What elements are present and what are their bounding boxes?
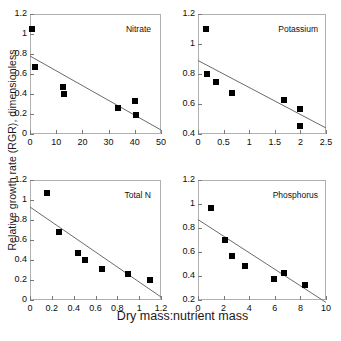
y-tick-label: 0.6 (169, 98, 195, 108)
data-point (229, 253, 235, 259)
panel-title: Phosphorus (273, 190, 318, 200)
data-point (213, 79, 219, 85)
y-tick (30, 134, 34, 135)
x-tick (198, 130, 199, 134)
x-tick-label: 1.2 (148, 303, 174, 313)
y-tick-label: 0.6 (1, 234, 27, 244)
y-tick (198, 252, 202, 253)
x-tick (56, 130, 57, 134)
y-tick-label: 1.2 (1, 174, 27, 184)
x-tick (161, 130, 162, 134)
x-tick-label: 2 (211, 303, 237, 313)
panel-title: Nitrate (126, 24, 151, 34)
data-point (132, 98, 138, 104)
y-tick (30, 94, 34, 95)
y-tick-label: 0.4 (1, 88, 27, 98)
data-point (133, 112, 139, 118)
x-tick (52, 296, 53, 300)
y-tick-label: 1.2 (1, 8, 27, 18)
x-tick (249, 130, 250, 134)
x-tick-label: 40 (122, 137, 148, 147)
y-tick-label: 1.2 (169, 8, 195, 18)
y-tick (198, 74, 202, 75)
x-tick-label: 50 (148, 137, 174, 147)
y-tick (198, 276, 202, 277)
y-tick (30, 74, 34, 75)
y-tick (198, 104, 202, 105)
y-tick-label: 0.8 (1, 48, 27, 58)
data-point (60, 84, 66, 90)
y-tick-label: 0.4 (1, 254, 27, 264)
y-tick (30, 220, 34, 221)
x-tick (30, 130, 31, 134)
data-point (29, 26, 35, 32)
y-tick-label: 0.2 (1, 108, 27, 118)
data-point (147, 277, 153, 283)
data-point (297, 123, 303, 129)
data-point (115, 105, 121, 111)
x-tick (198, 296, 199, 300)
y-tick (198, 300, 202, 301)
data-point (82, 257, 88, 263)
data-point (125, 271, 131, 277)
x-tick (117, 296, 118, 300)
data-point (281, 270, 287, 276)
panel-potassium: 0.40.60.811.200.511.522.5Potassium (198, 14, 341, 174)
y-tick (30, 260, 34, 261)
x-tick (326, 130, 327, 134)
data-point (271, 276, 277, 282)
x-tick-label: 2 (287, 137, 313, 147)
x-tick-label: 8 (287, 303, 313, 313)
data-point (281, 97, 287, 103)
x-tick (275, 130, 276, 134)
y-tick-label: 1 (169, 198, 195, 208)
x-tick-label: 20 (69, 137, 95, 147)
y-tick-label: 1 (169, 38, 195, 48)
x-tick-label: 0.5 (211, 137, 237, 147)
panel-title: Potassium (278, 24, 318, 34)
x-tick-label: 30 (96, 137, 122, 147)
x-tick-label: 2.5 (313, 137, 339, 147)
x-tick (109, 130, 110, 134)
x-tick (135, 130, 136, 134)
x-tick (74, 296, 75, 300)
data-point (56, 229, 62, 235)
x-tick-label: 0 (185, 303, 211, 313)
data-point (297, 106, 303, 112)
x-tick-label: 10 (43, 137, 69, 147)
x-tick-label: 1.5 (262, 137, 288, 147)
x-tick (224, 130, 225, 134)
x-tick (326, 296, 327, 300)
panel-phosphorus: 0.20.40.60.811.20246810Phosphorus (198, 180, 341, 340)
data-point (32, 64, 38, 70)
y-tick (30, 54, 34, 55)
data-point (204, 71, 210, 77)
y-tick (198, 204, 202, 205)
data-point (99, 266, 105, 272)
y-tick-label: 0.4 (169, 270, 195, 280)
x-tick (82, 130, 83, 134)
y-tick (30, 14, 34, 15)
figure-root: Relative growth rate (RGR), dimensionles… (0, 0, 341, 341)
x-tick (30, 296, 31, 300)
y-tick-label: 1.2 (169, 174, 195, 184)
y-tick-label: 0.8 (169, 68, 195, 78)
data-point (229, 90, 235, 96)
y-tick (30, 200, 34, 201)
y-tick (30, 114, 34, 115)
x-tick (224, 296, 225, 300)
y-tick (30, 280, 34, 281)
x-tick-label: 1 (236, 137, 262, 147)
x-tick (300, 130, 301, 134)
y-tick (198, 180, 202, 181)
y-tick (30, 240, 34, 241)
data-point (61, 91, 67, 97)
x-tick-label: 0 (185, 137, 211, 147)
y-tick (30, 180, 34, 181)
x-tick-label: 4 (236, 303, 262, 313)
x-tick (96, 296, 97, 300)
data-point (44, 190, 50, 196)
y-tick-label: 0.8 (169, 222, 195, 232)
y-tick-label: 1 (1, 28, 27, 38)
data-point (302, 282, 308, 288)
